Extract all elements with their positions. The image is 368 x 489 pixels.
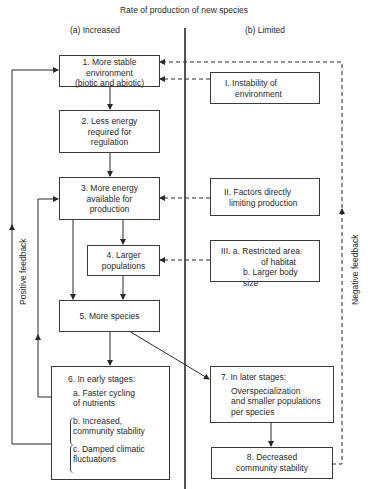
box-text: populations <box>92 261 155 272</box>
box-text: II. Factors directly <box>224 187 315 198</box>
box-early-stages: 6. In early stages: a. Faster cycling of… <box>51 366 170 480</box>
box-text: community stability <box>216 463 328 474</box>
box-text: regulation <box>64 137 155 148</box>
box-text: (biotic and abiotic) <box>64 78 155 89</box>
box-text: environment <box>64 68 155 79</box>
diagram-title: Rate of production of new species <box>0 5 368 15</box>
box-larger-populations: 4. Larger populations <box>87 245 160 276</box>
box-later-stages: 7. In later stages: Overspecialization a… <box>210 366 334 423</box>
box-text: of habitat <box>261 257 315 268</box>
brace-lower <box>70 445 75 473</box>
box-text: available for <box>64 194 155 205</box>
box-text: of nutrients <box>73 398 165 409</box>
box-text: a. Faster cycling <box>73 388 165 399</box>
box-text: 5. More species <box>64 311 155 322</box>
box-text: 4. Larger <box>92 250 155 261</box>
box-more-energy-production: 3. More energy available for production <box>59 177 160 220</box>
box-text: required for <box>64 127 155 138</box>
box-text: limiting production <box>229 198 315 209</box>
box-text: fluctuations <box>73 454 165 465</box>
box-text: b. Increased, <box>73 416 165 427</box>
box-text: 8. Decreased <box>216 452 328 463</box>
box-less-energy-regulation: 2. Less energy required for regulation <box>59 110 160 153</box>
box-text: b. Larger body size <box>243 267 315 288</box>
column-heading-limited: (b) Limited <box>210 25 320 35</box>
box-text: production <box>64 204 155 215</box>
box-text: Overspecialization <box>231 386 329 397</box>
box-text: community stability <box>73 426 165 437</box>
box-text: III. a. Restricted area <box>221 246 315 257</box>
positive-feedback-label: Positive feedback <box>18 238 28 305</box>
box-instability-environment: I. Instability of environment <box>210 72 320 104</box>
box-text: I. Instability of <box>225 78 315 89</box>
brace-upper <box>70 418 75 445</box>
box-text: 1. More stable <box>64 57 155 68</box>
box-more-species: 5. More species <box>59 300 160 332</box>
box-text: per species <box>231 407 329 418</box>
box-decreased-stability: 8. Decreased community stability <box>211 447 333 479</box>
negative-feedback-label: Negative feedback <box>350 235 360 305</box>
column-heading-increased: (a) Increased <box>40 25 150 35</box>
box-text: and smaller populations <box>231 396 329 407</box>
box-text: environment <box>235 89 315 100</box>
box-text: c. Damped climatic <box>73 444 165 455</box>
box-text: 3. More energy <box>64 183 155 194</box>
box-factors-limiting: II. Factors directly limiting production <box>210 178 320 216</box>
box-heading: 7. In later stages: <box>221 372 329 383</box>
box-text: 2. Less energy <box>64 116 155 127</box>
box-heading: 6. In early stages: <box>68 374 165 385</box>
box-more-stable-environment: 1. More stable environment (biotic and a… <box>59 55 160 87</box>
box-restricted-habitat: III. a. Restricted area of habitat b. La… <box>210 240 320 282</box>
